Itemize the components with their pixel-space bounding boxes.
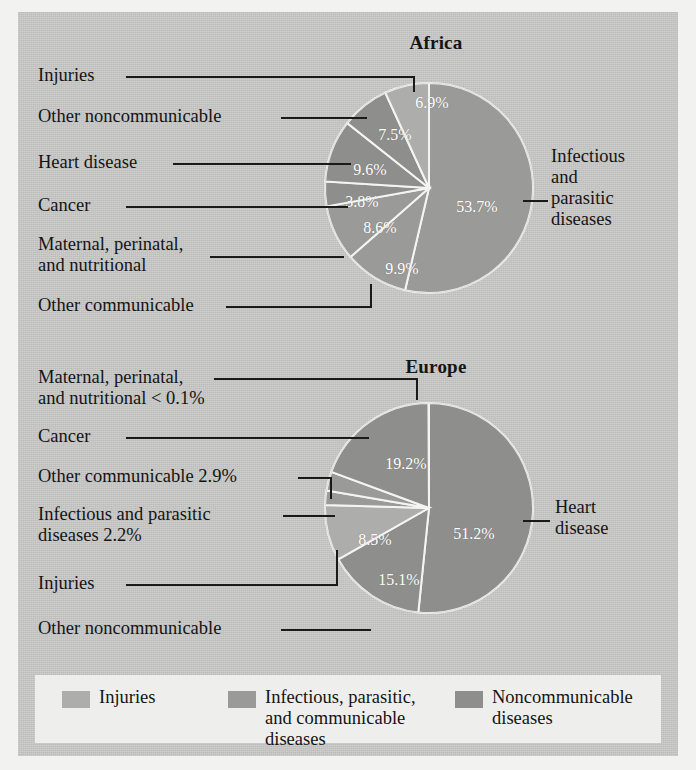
callout-africa-other-noncommunicable: Other noncommunicable <box>38 106 221 127</box>
callout-europe-cancer: Cancer <box>38 426 90 447</box>
callout-africa-injuries: Injuries <box>38 65 95 86</box>
callout-europe-maternal: Maternal, perinatal, and nutritional < 0… <box>38 367 205 409</box>
legend-item-injuries[interactable]: Injuries <box>62 687 156 708</box>
leader-africa-maternal <box>210 256 344 258</box>
slice-value-africa-heart: 9.6% <box>353 161 386 179</box>
callout-africa-maternal: Maternal, perinatal, and nutritional <box>38 234 183 276</box>
leader-europe-injuries-h <box>126 584 338 586</box>
legend-item-noncommunicable[interactable]: Noncommunicable diseases <box>455 687 633 729</box>
leader-europe-injuries-v <box>336 550 338 585</box>
leader-africa-heart-disease <box>173 163 351 165</box>
legend-label-infectious: Infectious, parasitic, and communicable … <box>265 687 416 750</box>
legend-swatch-injuries <box>62 691 90 708</box>
slice-value-africa-injuries: 6.9% <box>415 94 448 112</box>
leader-africa-other-communicable-h <box>226 306 372 308</box>
leader-africa-injuries-v <box>413 76 415 92</box>
chart-title-africa: Africa <box>336 32 536 54</box>
slice-value-africa-other-noncommunicable: 7.5% <box>378 126 411 144</box>
chart-panel-europe: Europe 51.2% 15.1% 8.5% 19.2% Maternal, … <box>18 340 678 660</box>
legend-item-infectious[interactable]: Infectious, parasitic, and communicable … <box>228 687 416 750</box>
pie-slice <box>418 403 533 613</box>
leader-africa-infectious <box>523 200 548 202</box>
pie-chart-europe <box>323 402 535 614</box>
figure-plate: Africa 53.7% 9.9% 8.6% 3.8% 9.6% 7.5% 6.… <box>18 12 678 756</box>
legend-swatch-noncommunicable <box>455 691 483 708</box>
legend: Injuries Infectious, parasitic, and comm… <box>35 675 661 743</box>
leader-africa-other-noncommunicable <box>281 117 367 119</box>
slice-value-europe-cancer: 19.2% <box>385 455 426 473</box>
leader-africa-injuries-h <box>126 76 415 78</box>
figure-root: Africa 53.7% 9.9% 8.6% 3.8% 9.6% 7.5% 6.… <box>0 0 696 770</box>
legend-label-noncommunicable: Noncommunicable diseases <box>492 687 633 729</box>
leader-europe-other-noncommunicable <box>281 629 371 631</box>
leader-europe-infectious <box>283 515 335 517</box>
leader-europe-other-communicable-v <box>330 477 332 499</box>
leader-europe-heart-disease <box>523 520 550 522</box>
leader-europe-cancer <box>126 437 369 439</box>
legend-swatch-infectious <box>228 691 256 708</box>
leader-europe-maternal-h <box>214 378 418 380</box>
slice-value-europe-injuries: 8.5% <box>358 531 391 549</box>
leader-africa-cancer <box>126 206 348 208</box>
leader-africa-other-communicable-v <box>370 284 372 307</box>
slice-value-africa-infectious: 53.7% <box>456 198 497 216</box>
slice-value-europe-other-noncommunicable: 15.1% <box>378 571 419 589</box>
legend-label-injuries: Injuries <box>99 687 156 708</box>
slice-value-africa-cancer: 3.8% <box>345 193 378 211</box>
slice-value-africa-other-communicable: 9.9% <box>385 260 418 278</box>
callout-europe-heart-disease: Heart disease <box>555 497 608 539</box>
callout-europe-injuries: Injuries <box>38 573 95 594</box>
callout-africa-cancer: Cancer <box>38 195 90 216</box>
callout-africa-other-communicable: Other communicable <box>38 295 194 316</box>
callout-europe-other-communicable: Other communicable 2.9% <box>38 466 237 487</box>
callout-africa-infectious: Infectious and parasitic diseases <box>551 146 625 230</box>
callout-europe-infectious: Infectious and parasitic diseases 2.2% <box>38 504 211 546</box>
chart-title-europe: Europe <box>336 356 536 378</box>
slice-value-europe-heart: 51.2% <box>453 525 494 543</box>
leader-europe-other-communicable-h <box>298 477 332 479</box>
pie-svg-europe <box>323 402 535 614</box>
callout-africa-heart-disease: Heart disease <box>38 152 137 173</box>
pie-chart-africa <box>323 82 535 294</box>
pie-svg-africa <box>323 82 535 294</box>
slice-value-africa-maternal: 8.6% <box>363 219 396 237</box>
callout-europe-other-noncommunicable: Other noncommunicable <box>38 618 221 639</box>
chart-panel-africa: Africa 53.7% 9.9% 8.6% 3.8% 9.6% 7.5% 6.… <box>18 12 678 340</box>
leader-europe-maternal-v <box>416 378 418 400</box>
